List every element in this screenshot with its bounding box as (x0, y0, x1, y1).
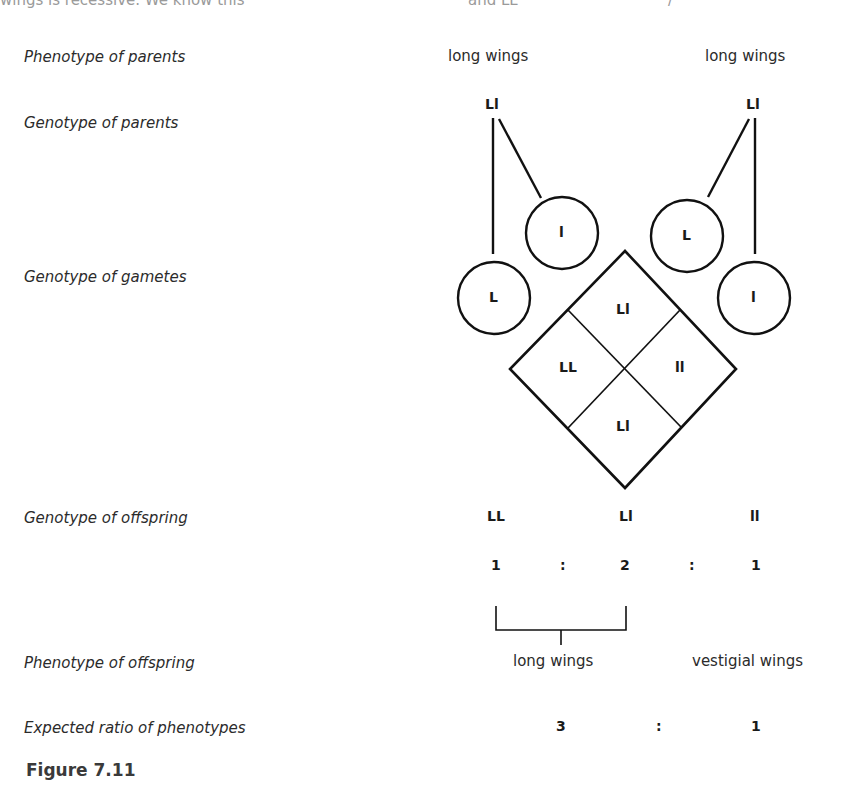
phenotype-ratio-vestigial: 1 (751, 718, 761, 734)
punnett-cell-top: Ll (616, 301, 630, 317)
phenotype-ratio-sep: : (656, 718, 662, 734)
gamete-left-L: L (489, 289, 498, 305)
offspring-phenotype-long: long wings (513, 652, 593, 670)
left-parent-line-l (499, 119, 541, 198)
genotype-ratio-ll: 1 (751, 557, 761, 573)
long-wings-bracket (496, 606, 626, 630)
genotype-ratio-sep-1: : (560, 557, 566, 573)
punnett-cell-right: ll (675, 359, 685, 375)
punnett-cell-bottom: Ll (616, 418, 630, 434)
phenotype-ratio-long: 3 (556, 718, 566, 734)
gamete-right-L: L (682, 227, 691, 243)
gamete-left-l: l (559, 224, 564, 240)
offspring-genotype-LL: LL (487, 508, 505, 524)
offspring-genotype-Ll: Ll (619, 508, 633, 524)
genotype-ratio-Ll: 2 (620, 557, 630, 573)
figure-caption: Figure 7.11 (26, 760, 136, 780)
gamete-right-l: l (751, 289, 756, 305)
offspring-phenotype-vestigial: vestigial wings (692, 652, 803, 670)
right-parent-line-L (708, 119, 749, 197)
cross-diagram (0, 0, 854, 798)
punnett-cell-left: LL (559, 359, 577, 375)
offspring-genotype-ll: ll (750, 508, 760, 524)
genotype-ratio-LL: 1 (491, 557, 501, 573)
genotype-ratio-sep-2: : (689, 557, 695, 573)
